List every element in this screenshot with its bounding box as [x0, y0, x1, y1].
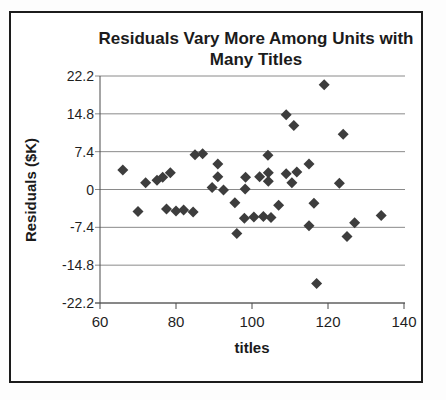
data-point-marker	[231, 228, 242, 239]
data-point-marker	[308, 198, 319, 209]
data-point-marker	[240, 183, 251, 194]
data-point-marker	[188, 206, 199, 217]
data-point-marker	[304, 220, 315, 231]
data-point-marker	[212, 171, 223, 182]
y-tick-label: 0	[86, 182, 94, 198]
data-point-marker	[229, 197, 240, 208]
y-axis-title: Residuals ($K)	[22, 138, 39, 242]
y-tick-label: -7.4	[70, 219, 94, 235]
data-point-marker	[248, 212, 259, 223]
data-point-marker	[140, 177, 151, 188]
data-point-marker	[281, 109, 292, 120]
data-point-marker	[240, 172, 251, 183]
data-point-marker	[288, 120, 299, 131]
data-point-marker	[376, 210, 387, 221]
data-point-marker	[161, 203, 172, 214]
y-tick-label: -22.2	[62, 295, 94, 311]
data-point-marker	[273, 200, 284, 211]
x-tick-label: 80	[168, 313, 185, 330]
y-tick-label: -14.8	[62, 257, 94, 273]
data-point-marker	[291, 167, 302, 178]
data-point-marker	[281, 168, 292, 179]
data-point-marker	[319, 79, 330, 90]
data-point-marker	[338, 129, 349, 140]
x-tick-label: 140	[391, 313, 416, 330]
x-axis-title: titles	[234, 339, 269, 356]
y-tick-label: 7.4	[75, 144, 95, 160]
data-point-marker	[117, 165, 128, 176]
data-point-marker	[342, 231, 353, 242]
data-point-marker	[334, 178, 345, 189]
data-point-marker	[218, 185, 229, 196]
data-point-marker	[286, 177, 297, 188]
y-tick-label: 14.8	[67, 106, 94, 122]
data-point-marker	[178, 204, 189, 215]
data-point-marker	[212, 158, 223, 169]
data-point-marker	[197, 148, 208, 159]
data-point-marker	[311, 278, 322, 289]
data-point-marker	[239, 213, 250, 224]
x-tick-label: 120	[315, 313, 340, 330]
data-point-marker	[207, 182, 218, 193]
data-point-marker	[263, 176, 274, 187]
data-point-marker	[304, 158, 315, 169]
y-tick-label: 22.2	[67, 68, 94, 84]
chart-title: Residuals Vary More Among Units with Man…	[95, 28, 417, 70]
x-tick-label: 60	[92, 313, 109, 330]
figure-canvas: 22.214.87.40-7.4-14.8-22.26080100120140 …	[0, 0, 446, 400]
data-point-marker	[266, 212, 277, 223]
data-point-marker	[349, 217, 360, 228]
data-point-marker	[133, 206, 144, 217]
x-tick-label: 100	[239, 313, 264, 330]
